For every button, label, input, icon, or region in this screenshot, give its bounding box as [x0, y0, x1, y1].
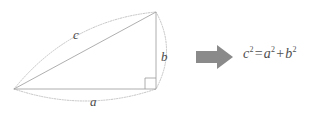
formula-term2-exponent: 2: [292, 45, 296, 54]
triangle-outline: [14, 12, 156, 89]
formula-equals: =: [254, 46, 264, 61]
right-angle-marker: [145, 78, 156, 89]
figure-canvas: c b a c2=a2+b2: [0, 0, 322, 119]
label-horizontal-leg-a: a: [90, 95, 97, 108]
label-hypotenuse-c: c: [73, 28, 79, 41]
formula-lhs-exponent: 2: [249, 45, 253, 54]
pythagorean-formula: c2=a2+b2: [243, 47, 297, 61]
formula-plus: +: [275, 46, 285, 61]
label-vertical-leg-b: b: [161, 50, 168, 63]
arc-horizontal-leg: [14, 89, 156, 101]
implies-arrow-icon: [196, 45, 233, 69]
formula-term1-base: a: [264, 46, 271, 61]
